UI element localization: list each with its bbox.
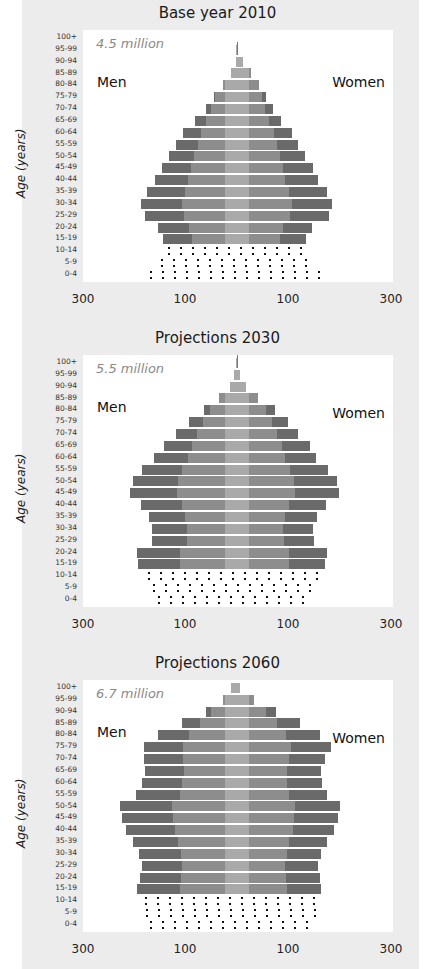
men-bar-outer xyxy=(189,417,203,427)
top-line xyxy=(237,355,238,368)
men-bar-middle xyxy=(201,128,225,138)
age-group-label: 45-49 xyxy=(35,488,77,496)
men-bar-inner xyxy=(225,104,237,114)
men-bar-outer xyxy=(164,441,192,451)
age-group-label: 35-39 xyxy=(35,837,77,845)
women-label: Women xyxy=(332,405,385,421)
women-bar-inner xyxy=(237,453,249,463)
women-bar-inner xyxy=(237,199,249,209)
women-bar-middle xyxy=(249,524,283,534)
women-bar-outer xyxy=(294,476,337,486)
women-bar-inner xyxy=(237,211,249,221)
age-group-label: 80-84 xyxy=(35,730,77,738)
x-tick-label: 100 xyxy=(277,292,300,306)
women-bar-outer xyxy=(285,453,316,463)
women-bar-middle xyxy=(249,559,289,569)
women-bar-inner xyxy=(237,488,249,498)
men-bar-middle xyxy=(172,801,225,811)
men-bar-inner xyxy=(225,488,237,498)
women-bar-inner xyxy=(237,116,249,126)
women-bar-outer xyxy=(287,884,321,894)
men-bar-outer xyxy=(141,500,182,510)
women-bar-middle xyxy=(249,187,289,197)
women-bar-inner xyxy=(237,465,249,475)
age-group-label: 95-99 xyxy=(35,370,77,378)
x-tick-label: 100 xyxy=(277,942,300,956)
women-bar-middle xyxy=(249,825,293,835)
age-group-label: 100+ xyxy=(35,683,77,691)
men-bar-outer xyxy=(169,151,194,161)
projected-cohort-dots xyxy=(156,257,313,269)
age-group-label: 75-79 xyxy=(35,742,77,750)
chart-title: Base year 2010 xyxy=(0,4,435,22)
men-bar-middle xyxy=(183,742,225,752)
men-bar-inner xyxy=(225,140,237,150)
men-bar-inner xyxy=(225,873,237,883)
women-bar-outer xyxy=(289,837,326,847)
age-group-label: 75-79 xyxy=(35,92,77,100)
men-bar-middle xyxy=(180,559,225,569)
women-bar-inner xyxy=(237,500,249,510)
men-bar-middle xyxy=(211,104,225,114)
age-group-label: 0-4 xyxy=(35,595,77,603)
men-bar-outer xyxy=(176,429,198,439)
men-bar-inner xyxy=(225,175,237,185)
women-bar-middle xyxy=(249,873,286,883)
women-bar-outer xyxy=(289,500,326,510)
women-bar-middle xyxy=(249,163,283,173)
men-bar-inner xyxy=(225,766,237,776)
men-bar-outer xyxy=(152,536,187,546)
age-group-label: 50-54 xyxy=(35,802,77,810)
men-bar-outer xyxy=(130,488,177,498)
age-group-label: 0-4 xyxy=(35,920,77,928)
women-bar-middle xyxy=(249,778,287,788)
men-bar-middle xyxy=(182,861,225,871)
women-bar-middle xyxy=(249,488,295,498)
women-bar-outer xyxy=(277,718,300,728)
men-bar-inner xyxy=(225,92,237,102)
men-bar-middle xyxy=(206,116,225,126)
women-bar-outer xyxy=(289,548,326,558)
age-group-label: 45-49 xyxy=(35,813,77,821)
women-bar-middle xyxy=(249,453,285,463)
age-group-label: 60-64 xyxy=(35,128,77,136)
women-bar-middle xyxy=(249,223,283,233)
women-label: Women xyxy=(332,730,385,746)
age-group-label: 60-64 xyxy=(35,778,77,786)
projected-cohort-dots xyxy=(143,570,322,582)
men-bar-inner xyxy=(225,849,237,859)
men-bar-outer xyxy=(136,790,180,800)
men-bar-outer xyxy=(141,199,182,209)
women-bar-inner xyxy=(237,754,249,764)
men-bar-inner xyxy=(225,393,237,403)
women-bar-inner xyxy=(237,536,249,546)
women-bar-inner xyxy=(237,801,249,811)
women-bar-middle xyxy=(249,861,285,871)
men-label: Men xyxy=(97,399,127,415)
women-bar-inner xyxy=(237,548,249,558)
women-bar-middle xyxy=(249,92,262,102)
x-tick-label: 300 xyxy=(380,617,403,631)
population-pyramid-0: Base year 20104.5 millionMenWomenAge (ye… xyxy=(0,0,435,320)
men-bar-inner xyxy=(225,465,237,475)
chart-title: Projections 2030 xyxy=(0,329,435,347)
women-bar-middle xyxy=(249,405,266,415)
women-bar-inner xyxy=(237,417,249,427)
age-group-label: 85-89 xyxy=(35,69,77,77)
women-bar-middle xyxy=(249,234,280,244)
age-group-label: 65-69 xyxy=(35,116,77,124)
age-group-label: 50-54 xyxy=(35,477,77,485)
age-group-label: 30-34 xyxy=(35,849,77,857)
men-bar-outer xyxy=(133,837,178,847)
women-bar-middle xyxy=(249,211,290,221)
women-bar-middle xyxy=(249,707,266,717)
men-bar-inner xyxy=(225,524,237,534)
men-bar-inner xyxy=(225,825,237,835)
population-total: 4.5 million xyxy=(96,36,164,51)
age-group-label: 25-29 xyxy=(35,211,77,219)
women-bar-inner xyxy=(237,683,240,693)
age-group-label: 100+ xyxy=(35,33,77,41)
men-bar-middle xyxy=(188,453,225,463)
age-group-label: 5-9 xyxy=(35,908,77,916)
women-bar-middle xyxy=(249,766,287,776)
